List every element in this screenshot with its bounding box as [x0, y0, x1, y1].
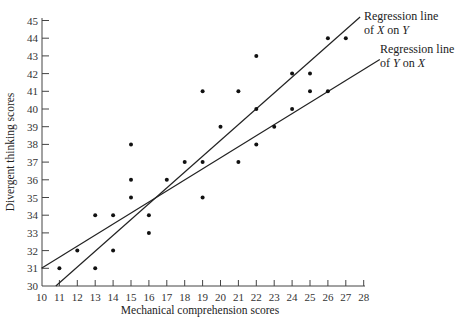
- y-tick-label: 33: [27, 227, 39, 239]
- data-point: [219, 125, 223, 129]
- y-tick-label: 42: [27, 68, 38, 80]
- data-point: [254, 142, 258, 146]
- data-point: [129, 178, 133, 182]
- y-tick-label: 34: [27, 209, 39, 221]
- data-point: [183, 160, 187, 164]
- data-point: [57, 266, 61, 270]
- annotation-y-on-x: Regression line of Y on X: [380, 42, 454, 70]
- data-point: [236, 89, 240, 93]
- regression-lines: [42, 17, 380, 286]
- data-point: [129, 142, 133, 146]
- y-tick-label: 31: [27, 262, 38, 274]
- x-tick-label: 18: [179, 291, 191, 303]
- x-axis-ticks: 10111213141516171819202122232425262728: [36, 280, 370, 303]
- y-tick-label: 36: [27, 174, 39, 186]
- data-points: [57, 36, 347, 270]
- data-point: [272, 125, 276, 129]
- data-point: [93, 213, 97, 217]
- x-tick-label: 17: [161, 291, 173, 303]
- x-tick-label: 22: [251, 291, 262, 303]
- x-axis-title: Mechanical comprehension scores: [121, 304, 280, 317]
- data-point: [147, 213, 151, 217]
- x-tick-label: 20: [215, 291, 227, 303]
- data-point: [147, 231, 151, 235]
- x-tick-label: 28: [358, 291, 370, 303]
- data-point: [111, 213, 115, 217]
- data-point: [254, 107, 258, 111]
- annotation-line1: Regression line: [380, 42, 454, 56]
- data-point: [308, 89, 312, 93]
- data-point: [129, 196, 133, 200]
- data-point: [111, 249, 115, 253]
- x-tick-label: 19: [197, 291, 209, 303]
- data-point: [236, 160, 240, 164]
- data-point: [308, 72, 312, 76]
- annotation-line2: of X on Y: [364, 23, 410, 37]
- data-point: [75, 249, 79, 253]
- data-point: [201, 160, 205, 164]
- data-point: [254, 54, 258, 58]
- x-tick-label: 25: [305, 291, 317, 303]
- x-tick-label: 16: [143, 291, 155, 303]
- x-tick-label: 14: [108, 291, 120, 303]
- y-tick-label: 37: [27, 156, 39, 168]
- axes: 10111213141516171819202122232425262728 3…: [27, 15, 370, 304]
- data-point: [165, 178, 169, 182]
- x-tick-label: 13: [90, 291, 102, 303]
- y-tick-label: 30: [27, 280, 39, 292]
- y-tick-label: 41: [27, 85, 38, 97]
- x-tick-label: 27: [340, 291, 352, 303]
- data-point: [93, 266, 97, 270]
- data-point: [326, 89, 330, 93]
- data-point: [326, 36, 330, 40]
- x-tick-label: 26: [322, 291, 334, 303]
- x-tick-label: 10: [36, 291, 48, 303]
- y-tick-label: 39: [27, 121, 39, 133]
- data-point: [201, 196, 205, 200]
- annotation-line2: of Y on X: [380, 56, 426, 70]
- x-tick-label: 21: [233, 291, 244, 303]
- x-tick-label: 24: [287, 291, 299, 303]
- scatter-chart: 10111213141516171819202122232425262728 3…: [0, 0, 456, 320]
- x-tick-label: 23: [269, 291, 281, 303]
- y-tick-label: 40: [27, 103, 39, 115]
- y-axis-ticks: 30313233343536373839404142434445: [27, 15, 49, 293]
- x-tick-label: 11: [54, 291, 65, 303]
- y-tick-label: 44: [27, 32, 39, 44]
- y-tick-label: 35: [27, 192, 39, 204]
- annotation-line1: Regression line: [364, 9, 438, 23]
- regression-line-x-on-y: [56, 17, 360, 286]
- annotation-x-on-y: Regression line of X on Y: [364, 9, 438, 37]
- y-tick-label: 43: [27, 50, 39, 62]
- y-tick-label: 38: [27, 138, 39, 150]
- data-point: [290, 72, 294, 76]
- y-tick-label: 32: [27, 245, 38, 257]
- data-point: [201, 89, 205, 93]
- y-tick-label: 45: [27, 15, 39, 27]
- y-axis-title: Divergent thinking scores: [4, 92, 17, 211]
- x-tick-label: 15: [126, 291, 138, 303]
- data-point: [290, 107, 294, 111]
- data-point: [344, 36, 348, 40]
- x-tick-label: 12: [72, 291, 83, 303]
